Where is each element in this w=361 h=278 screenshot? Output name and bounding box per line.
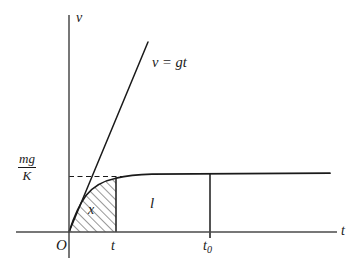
velocity-curve <box>116 173 330 178</box>
x-tick-label-t0: t0 <box>203 239 212 255</box>
fraction-numerator: mg <box>17 152 37 167</box>
asymptote-fraction-label: mg K <box>17 152 37 182</box>
velocity-time-diagram: v t O t t0 v = gt mg K x l <box>0 0 361 278</box>
x-tick-label-t: t <box>111 239 115 253</box>
fraction-denominator: K <box>17 168 37 183</box>
plot-canvas <box>0 0 361 278</box>
region-label: l <box>150 196 154 211</box>
t-axis-label: t <box>341 224 345 238</box>
t0-subscript: 0 <box>207 244 212 255</box>
shaded-area-label: x <box>88 203 94 217</box>
origin-label: O <box>56 238 67 253</box>
tangent-line-equation-label: v = gt <box>152 55 187 70</box>
v-axis-label: v <box>76 11 82 25</box>
